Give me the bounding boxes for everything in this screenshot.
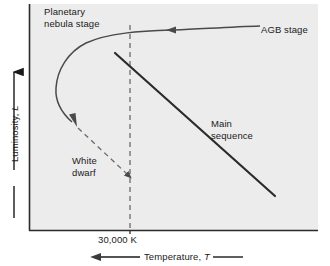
label-main-sequence-line1: Main	[211, 118, 232, 129]
y-axis-label: Luminosity, L	[9, 94, 21, 174]
label-white-dwarf-line2: dwarf	[72, 167, 96, 178]
label-planetary-nebula-line2: nebula stage	[44, 18, 100, 29]
label-white-dwarf-line1: White	[72, 155, 97, 166]
label-white-dwarf: White dwarf	[72, 155, 97, 178]
x-axis-label-symbol: T	[204, 251, 210, 262]
y-axis-label-symbol: L	[9, 105, 20, 110]
label-main-sequence-line2: sequence	[211, 130, 253, 141]
x-axis-tick-label: 30,000 K	[98, 234, 137, 246]
y-axis-label-text: Luminosity,	[9, 111, 20, 162]
x-axis-label: Temperature, T	[144, 251, 210, 263]
label-planetary-nebula-line1: Planetary	[44, 6, 85, 17]
label-planetary-nebula-stage: Planetary nebula stage	[44, 6, 100, 29]
diagram-canvas	[0, 0, 330, 266]
x-axis-label-text: Temperature,	[144, 251, 204, 262]
label-agb-stage: AGB stage	[261, 24, 308, 36]
hr-diagram-figure: Planetary nebula stage AGB stage Main se…	[0, 0, 330, 266]
label-main-sequence: Main sequence	[211, 118, 253, 141]
